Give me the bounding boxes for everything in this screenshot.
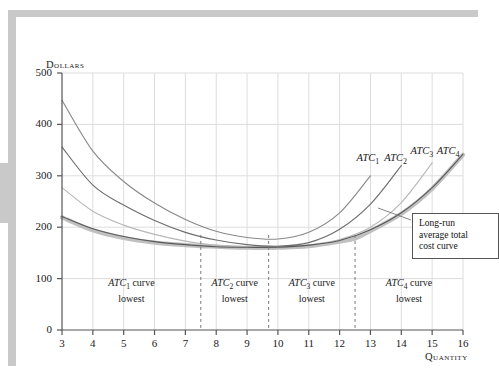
x-tick-10: 10 (269, 337, 287, 349)
y-tick-300: 300 (26, 169, 52, 181)
x-tick-4: 4 (84, 337, 102, 349)
figure-card: Dollars Quantity 0100200300400500 345678… (16, 17, 482, 369)
curve-label-atc4: ATC4 (437, 145, 460, 159)
cost-curve-plot (16, 17, 482, 369)
curve-label-atc3: ATC3 (410, 145, 433, 159)
x-tick-16: 16 (454, 337, 472, 349)
y-tick-100: 100 (26, 272, 52, 284)
region-label-3: ATC3 curvelowest (267, 277, 357, 305)
curve-label-atc2: ATC2 (384, 152, 407, 166)
callout-line-2: average total (419, 230, 493, 242)
y-tick-400: 400 (26, 117, 52, 129)
x-tick-15: 15 (423, 337, 441, 349)
x-tick-8: 8 (207, 337, 225, 349)
region-label-1: ATC1 curvelowest (86, 277, 176, 305)
y-tick-200: 200 (26, 220, 52, 232)
x-tick-9: 9 (238, 337, 256, 349)
x-tick-6: 6 (146, 337, 164, 349)
x-tick-11: 11 (300, 337, 318, 349)
lrac-callout: Long-run average total cost curve (412, 213, 499, 259)
y-tick-0: 0 (26, 323, 52, 335)
x-tick-5: 5 (115, 337, 133, 349)
y-tick-500: 500 (26, 66, 52, 78)
callout-line-1: Long-run (419, 218, 493, 230)
curve-label-atc1: ATC1 (356, 152, 379, 166)
x-tick-3: 3 (53, 337, 71, 349)
x-tick-14: 14 (392, 337, 410, 349)
x-tick-13: 13 (361, 337, 379, 349)
x-tick-12: 12 (331, 337, 349, 349)
x-tick-7: 7 (176, 337, 194, 349)
region-label-4: ATC4 curvelowest (364, 277, 454, 305)
x-axis-title: Quantity (425, 351, 468, 362)
callout-line-3: cost curve (419, 241, 493, 253)
